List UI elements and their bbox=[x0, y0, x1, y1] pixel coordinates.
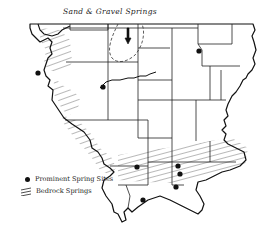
sand-gravel-springs-label: Sand & Gravel Springs bbox=[63, 7, 157, 16]
spring-site-dot[interactable] bbox=[173, 184, 178, 189]
spring-site-dot[interactable] bbox=[177, 171, 182, 176]
legend-label: Prominent Spring Sites bbox=[35, 175, 113, 183]
bedrock-zone-west-lower bbox=[52, 78, 80, 115]
spring-site-dot[interactable] bbox=[134, 164, 139, 169]
spring-site-dot[interactable] bbox=[196, 48, 201, 53]
map-legend: Prominent Spring Sites Bedrock Springs bbox=[22, 173, 113, 197]
legend-item-bedrock-springs: Bedrock Springs bbox=[22, 185, 113, 197]
spring-site-dot[interactable] bbox=[35, 70, 40, 75]
filled-dot-icon bbox=[25, 177, 30, 182]
spring-site-dot[interactable] bbox=[100, 84, 105, 89]
hatch-icon bbox=[20, 187, 32, 196]
spring-site-dot[interactable] bbox=[140, 197, 145, 202]
sand-gravel-area bbox=[110, 24, 144, 62]
spring-site-dot[interactable] bbox=[175, 163, 180, 168]
sand-gravel-arrow bbox=[125, 28, 131, 44]
spring-map: Sand & Gravel Springs Prominent Spring S… bbox=[0, 0, 275, 229]
legend-item-spring-sites: Prominent Spring Sites bbox=[22, 173, 113, 185]
legend-label: Bedrock Springs bbox=[36, 187, 92, 195]
